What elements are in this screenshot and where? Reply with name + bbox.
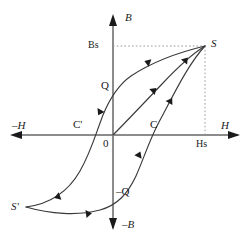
point-label-c-prime: C' — [73, 119, 82, 130]
direction-marker-ascending-3 — [166, 96, 176, 105]
point-label-q: Q — [101, 80, 109, 91]
direction-marker-ascending-2 — [134, 150, 144, 159]
origin-label: 0 — [103, 138, 109, 149]
negative-h-axis-label: –H — [12, 120, 25, 131]
negative-b-axis-label: –B — [122, 219, 134, 230]
point-label-s-prime: S' — [11, 201, 19, 212]
direction-marker-ascending-1 — [85, 209, 92, 218]
tick-label-bs: Bs — [88, 40, 99, 50]
point-label-s: S — [211, 38, 217, 49]
h-axis-label: H — [221, 120, 229, 131]
b-axis-positive-arrowhead — [109, 14, 117, 26]
h-axis-negative-arrowhead — [10, 131, 22, 139]
hysteresis-figure: B –B H –H 0 S S' Q –Q C C' Bs Hs — [0, 0, 248, 244]
b-axis-negative-arrowhead — [109, 218, 117, 230]
b-axis-label: B — [125, 12, 132, 23]
h-axis-positive-arrowhead — [228, 131, 240, 139]
direction-marker-initial-1 — [149, 85, 159, 95]
point-label-c: C — [150, 119, 157, 130]
tick-label-hs: Hs — [196, 139, 207, 149]
point-label-negative-q: –Q — [116, 186, 129, 197]
descending-branch-curve — [26, 46, 205, 207]
